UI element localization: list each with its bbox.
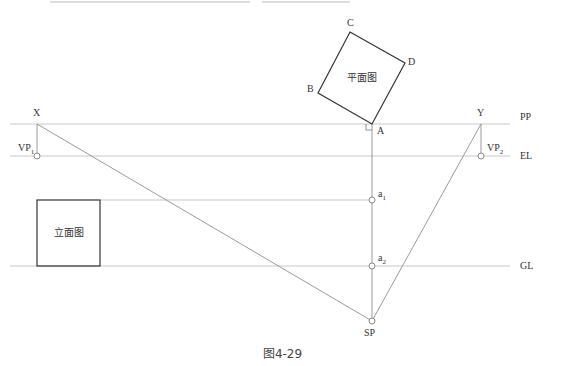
vp1-subscript: 1	[31, 148, 35, 156]
a1-subscript: 1	[382, 194, 386, 202]
vp1-label: VP1	[18, 143, 34, 156]
point-b-label: B	[307, 84, 314, 94]
vp2-base: VP	[487, 142, 500, 153]
a1-point-icon	[369, 197, 375, 203]
point-x-label: X	[33, 108, 40, 118]
vp2-point-icon	[478, 153, 484, 159]
a1-label: a1	[378, 189, 386, 202]
point-d-label: D	[408, 57, 415, 67]
gl-label: GL	[520, 261, 533, 271]
vp2-label: VP2	[487, 143, 503, 156]
a2-label: a2	[378, 253, 386, 266]
vp1-base: VP	[18, 142, 31, 153]
elevation-label: 立面图	[54, 228, 84, 238]
point-y-label: Y	[477, 108, 484, 118]
perspective-diagram	[0, 0, 565, 366]
pp-label: PP	[520, 112, 531, 122]
el-label: EL	[520, 151, 532, 161]
sp-label: SP	[364, 328, 375, 338]
figure-caption: 图4-29	[0, 344, 565, 361]
x-to-sp-line	[37, 124, 372, 321]
plan-label: 平面图	[347, 73, 377, 83]
a2-point-icon	[369, 263, 375, 269]
vp1-point-icon	[34, 153, 40, 159]
sp-point-icon	[369, 318, 375, 324]
a2-subscript: 2	[382, 258, 386, 266]
y-to-sp-line	[372, 124, 481, 321]
point-c-label: C	[347, 18, 354, 28]
right-angle-marker	[366, 124, 372, 130]
point-a-label: A	[377, 126, 384, 136]
vp2-subscript: 2	[500, 148, 504, 156]
